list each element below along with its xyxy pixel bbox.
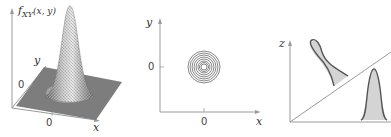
y-axis-label: y xyxy=(34,55,40,66)
x-tick-zero: 0 xyxy=(201,117,207,127)
surface-plot-panel: fXY(x, y) y 0 0 x xyxy=(0,0,130,137)
contour-rings xyxy=(188,51,220,83)
z-axis-arrow-icon xyxy=(288,40,292,46)
z-axis-label: z xyxy=(279,38,285,49)
y-axis-label: y xyxy=(146,17,152,28)
x-tick-zero: 0 xyxy=(46,118,52,128)
y-tick-zero: 0 xyxy=(18,80,24,90)
surface-plot-graphic xyxy=(0,0,130,137)
x-axis-label: x xyxy=(93,122,99,133)
contour-plot-panel: y 0 0 x xyxy=(130,0,260,137)
z-axis-arrow-icon xyxy=(10,8,14,14)
y-axis-arrow-icon xyxy=(158,18,162,24)
slice-plot-panel: z xyxy=(260,0,391,137)
z-axis-label: fXY(x, y) xyxy=(18,5,56,19)
slice-plot-graphic xyxy=(260,0,391,137)
y-tick-zero: 0 xyxy=(148,62,154,72)
